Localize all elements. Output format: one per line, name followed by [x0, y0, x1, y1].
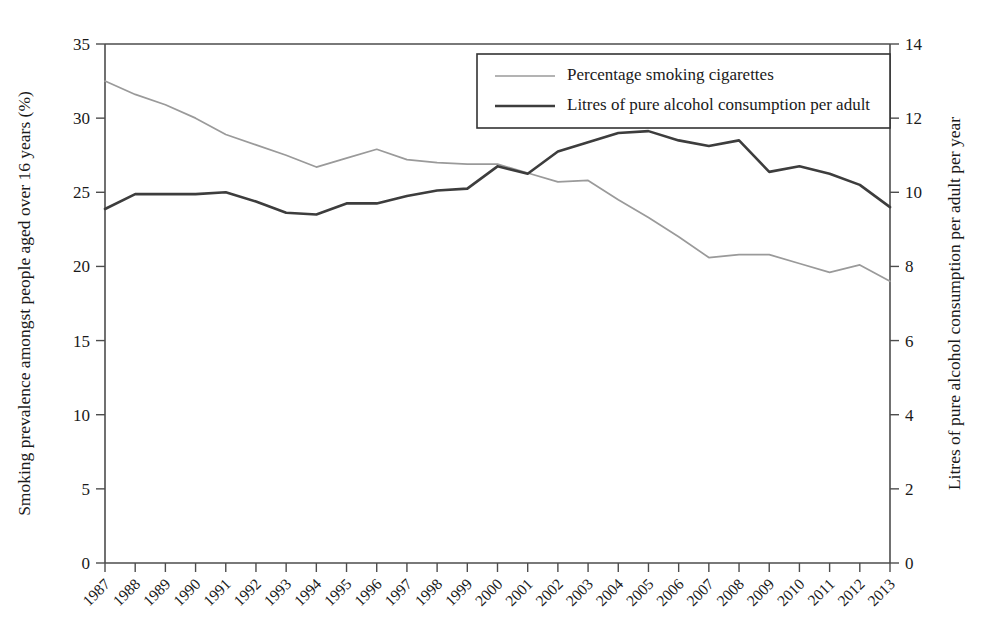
x-axis-tick-label: 1998 — [411, 575, 445, 609]
y-axis-right-tick-label: 4 — [905, 406, 914, 425]
dual-axis-line-chart: 05101520253035 02468101214 1987198819891… — [0, 0, 988, 644]
x-axis-ticks: 1987198819891990199119921993199419951996… — [79, 563, 898, 609]
x-axis-tick-label: 1994 — [291, 575, 325, 609]
y-axis-left-tick-label: 20 — [73, 257, 90, 276]
chart-legend: Percentage smoking cigarettesLitres of p… — [477, 54, 890, 128]
x-axis-tick-label: 1993 — [260, 575, 294, 609]
y-axis-right-tick-label: 14 — [905, 35, 923, 54]
x-axis-tick-label: 1996 — [351, 575, 385, 609]
y-axis-left-tick-label: 15 — [73, 332, 90, 351]
x-axis-tick-label: 2013 — [864, 575, 898, 609]
x-axis-tick-label: 2005 — [623, 575, 657, 609]
series-line-2 — [105, 131, 890, 214]
x-axis-tick-label: 1997 — [381, 575, 415, 609]
y-axis-left-tick-label: 0 — [82, 554, 91, 573]
y-axis-right-tick-label: 2 — [905, 480, 914, 499]
x-axis-tick-label: 2006 — [653, 575, 687, 609]
y-axis-right-tick-label: 12 — [905, 109, 922, 128]
x-axis-tick-label: 2000 — [472, 575, 506, 609]
x-axis-tick-label: 1987 — [79, 575, 113, 609]
x-axis-tick-label: 2010 — [774, 575, 808, 609]
x-axis-tick-label: 1995 — [321, 575, 355, 609]
y-axis-left-tick-label: 35 — [73, 35, 90, 54]
legend-label-1: Percentage smoking cigarettes — [567, 65, 774, 84]
x-axis-tick-label: 2002 — [532, 575, 566, 609]
y-axis-left-tick-label: 5 — [82, 480, 91, 499]
x-axis-tick-label: 2009 — [743, 575, 777, 609]
x-axis-tick-label: 1992 — [230, 575, 264, 609]
x-axis-tick-label: 1999 — [441, 575, 475, 609]
y-axis-right-title: Litres of pure alcohol consumption per a… — [944, 117, 964, 490]
x-axis-tick-label: 1991 — [200, 575, 234, 609]
x-axis-tick-label: 1989 — [140, 575, 174, 609]
y-axis-right-ticks: 02468101214 — [890, 35, 923, 573]
y-axis-left-title: Smoking prevalence amongst people aged o… — [14, 91, 34, 516]
y-axis-right-tick-label: 10 — [905, 183, 922, 202]
x-axis-tick-label: 1990 — [170, 575, 204, 609]
y-axis-right-tick-label: 0 — [905, 554, 914, 573]
x-axis-tick-label: 2001 — [502, 575, 536, 609]
x-axis-tick-label: 2003 — [562, 575, 596, 609]
y-axis-left-tick-label: 30 — [73, 109, 90, 128]
legend-label-2: Litres of pure alcohol consumption per a… — [567, 95, 870, 114]
x-axis-tick-label: 2007 — [683, 575, 717, 609]
y-axis-right-tick-label: 8 — [905, 257, 914, 276]
x-axis-tick-label: 1988 — [109, 575, 143, 609]
y-axis-left-tick-label: 25 — [73, 183, 90, 202]
chart-figure: 05101520253035 02468101214 1987198819891… — [0, 0, 988, 644]
x-axis-tick-label: 2012 — [834, 575, 868, 609]
y-axis-right-tick-label: 6 — [905, 332, 914, 351]
y-axis-left-tick-label: 10 — [73, 406, 90, 425]
x-axis-tick-label: 2004 — [592, 575, 626, 609]
x-axis-tick-label: 2008 — [713, 575, 747, 609]
y-axis-left-ticks: 05101520253035 — [73, 35, 105, 573]
x-axis-tick-label: 2011 — [804, 575, 838, 609]
